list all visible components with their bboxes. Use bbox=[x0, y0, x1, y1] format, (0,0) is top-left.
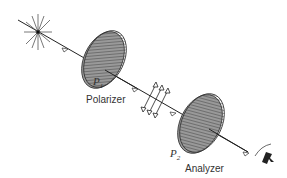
p2-label: P2 bbox=[170, 147, 180, 162]
beam-arrow-icon bbox=[170, 112, 176, 116]
polarization-diagram: P1 Polarizer P2 Analyzer bbox=[0, 0, 287, 178]
beam-arrow-icon bbox=[62, 48, 68, 52]
diagram-graphic bbox=[0, 0, 287, 178]
unpolarized-source-icon bbox=[24, 14, 52, 50]
p1-label: P1 bbox=[93, 75, 103, 90]
analyzer-label: Analyzer bbox=[185, 163, 224, 174]
polarization-arrows-icon bbox=[141, 82, 170, 118]
beam-arrow-icon bbox=[243, 152, 249, 156]
observer-eye-icon bbox=[255, 144, 274, 164]
polarizer-label: Polarizer bbox=[86, 94, 125, 105]
beam-arrow-icon bbox=[132, 88, 138, 92]
polarizer-disk bbox=[73, 24, 135, 95]
